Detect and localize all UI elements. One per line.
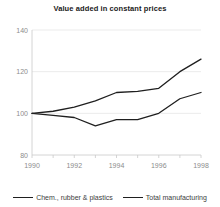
y-tick-label: 140 <box>16 27 28 34</box>
chart-container: Value added in constant prices 801001201… <box>0 0 220 207</box>
y-tick-label: 80 <box>20 152 28 159</box>
legend-item-total: Total manufacturing <box>123 194 207 201</box>
legend-line-swatch-chem <box>13 197 33 198</box>
legend-line-swatch-total <box>123 197 143 198</box>
x-tick-label: 1994 <box>109 162 125 169</box>
x-tick-label: 1998 <box>193 162 209 169</box>
x-tick-label: 1992 <box>66 162 82 169</box>
legend-item-chem: Chem., rubber & plastics <box>13 194 113 201</box>
chart-plot-area: 8010012014019901992199419961998 <box>0 0 220 178</box>
series-line-0 <box>32 59 201 113</box>
x-tick-label: 1996 <box>151 162 167 169</box>
x-tick-label: 1990 <box>24 162 40 169</box>
chart-legend: Chem., rubber & plastics Total manufactu… <box>0 194 220 201</box>
y-tick-label: 100 <box>16 110 28 117</box>
series-line-1 <box>32 93 201 126</box>
y-tick-label: 120 <box>16 68 28 75</box>
legend-label-total: Total manufacturing <box>146 194 207 201</box>
legend-label-chem: Chem., rubber & plastics <box>36 194 113 201</box>
